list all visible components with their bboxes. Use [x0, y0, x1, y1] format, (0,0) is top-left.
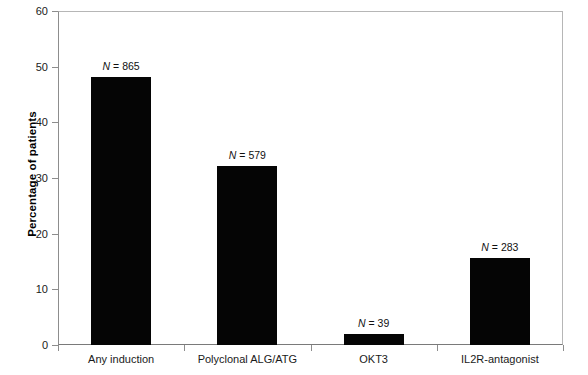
n-equals: = [366, 317, 378, 329]
x-tick-mark [437, 345, 438, 351]
bar-n-label: N = 579 [229, 149, 266, 161]
n-value: 579 [248, 149, 266, 161]
bar [217, 166, 277, 345]
bar [344, 334, 404, 345]
n-equals: = [489, 241, 501, 253]
x-tick-mark [58, 345, 59, 351]
n-value: 39 [378, 317, 390, 329]
n-value: 283 [501, 241, 519, 253]
n-equals: = [236, 149, 248, 161]
x-category-label: OKT3 [359, 353, 388, 365]
n-symbol: N [229, 149, 237, 161]
bar [470, 258, 530, 345]
y-tick-label: 0 [10, 339, 48, 351]
x-category-label: Any induction [88, 353, 154, 365]
x-tick-mark [311, 345, 312, 351]
bar-n-label: N = 283 [481, 241, 518, 253]
n-value: 865 [122, 60, 140, 72]
n-symbol: N [103, 60, 111, 72]
bar-n-label: N = 865 [103, 60, 140, 72]
x-tick-mark [563, 345, 564, 351]
n-symbol: N [358, 317, 366, 329]
x-category-label: Polyclonal ALG/ATG [198, 353, 297, 365]
x-category-label: IL2R-antagonist [461, 353, 539, 365]
bar-chart-figure: Percentage of patients 0102030405060 N =… [0, 0, 588, 375]
n-equals: = [110, 60, 122, 72]
bar-n-label: N = 39 [358, 317, 389, 329]
y-tick-label: 60 [10, 5, 48, 17]
bar [91, 77, 151, 345]
n-symbol: N [481, 241, 489, 253]
x-tick-mark [184, 345, 185, 351]
y-axis-title: Percentage of patients [26, 44, 38, 304]
